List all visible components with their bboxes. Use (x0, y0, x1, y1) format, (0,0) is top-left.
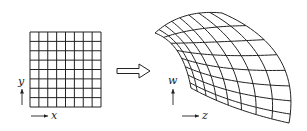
z-axis-label: z (201, 109, 208, 122)
w-axis-label: w (168, 74, 178, 87)
y-axis-label: y (17, 75, 25, 88)
x-axis-label: x (51, 109, 58, 122)
source-axes: y x (17, 75, 58, 122)
source-grid (30, 32, 101, 107)
mapping-diagram: y x w z (0, 0, 307, 131)
mapping-arrow-icon (117, 64, 150, 78)
target-grid (155, 12, 291, 123)
